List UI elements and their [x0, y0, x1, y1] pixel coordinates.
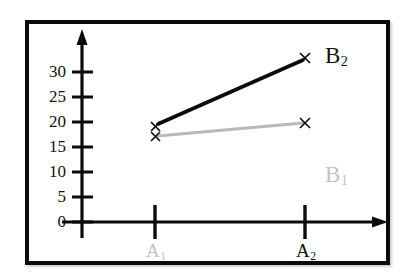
- legend-label-b2-subscript: 2: [340, 53, 348, 69]
- y-tick-label-25: 25: [32, 88, 66, 105]
- x-axis-label-a1-letter: A: [146, 240, 160, 261]
- marker-b2-a1: [151, 122, 160, 131]
- legend-label-b1: B1: [325, 163, 348, 192]
- legend-label-b1-letter: B: [325, 162, 340, 187]
- chart-screenshot: 30 25 20 15 10 5 0 A1 A2 B2 B1: [0, 0, 415, 278]
- y-axis-arrow-icon: [77, 29, 88, 45]
- legend-label-b2-letter: B: [325, 43, 340, 68]
- marker-b2-a2: [300, 53, 310, 63]
- y-tick-label-10: 10: [32, 163, 66, 180]
- legend-label-b2: B2: [325, 44, 348, 73]
- y-tick-label-5: 5: [32, 188, 66, 205]
- y-tick-label-20: 20: [32, 113, 66, 130]
- x-axis-label-a2-subscript: 2: [310, 250, 316, 263]
- x-axis-label-a2-letter: A: [296, 240, 310, 261]
- x-axis-label-a1: A1: [146, 241, 166, 266]
- y-tick-label-30: 30: [32, 63, 66, 80]
- x-axis-label-a2: A2: [296, 241, 316, 266]
- x-axis-arrow-icon: [372, 217, 388, 228]
- y-tick-label-15: 15: [32, 138, 66, 155]
- series-line-b2: [158, 60, 303, 124]
- legend-label-b1-subscript: 1: [340, 172, 348, 188]
- series-line-b1: [157, 123, 303, 136]
- y-tick-label-0: 0: [32, 213, 66, 230]
- x-axis-label-a1-subscript: 1: [160, 250, 166, 263]
